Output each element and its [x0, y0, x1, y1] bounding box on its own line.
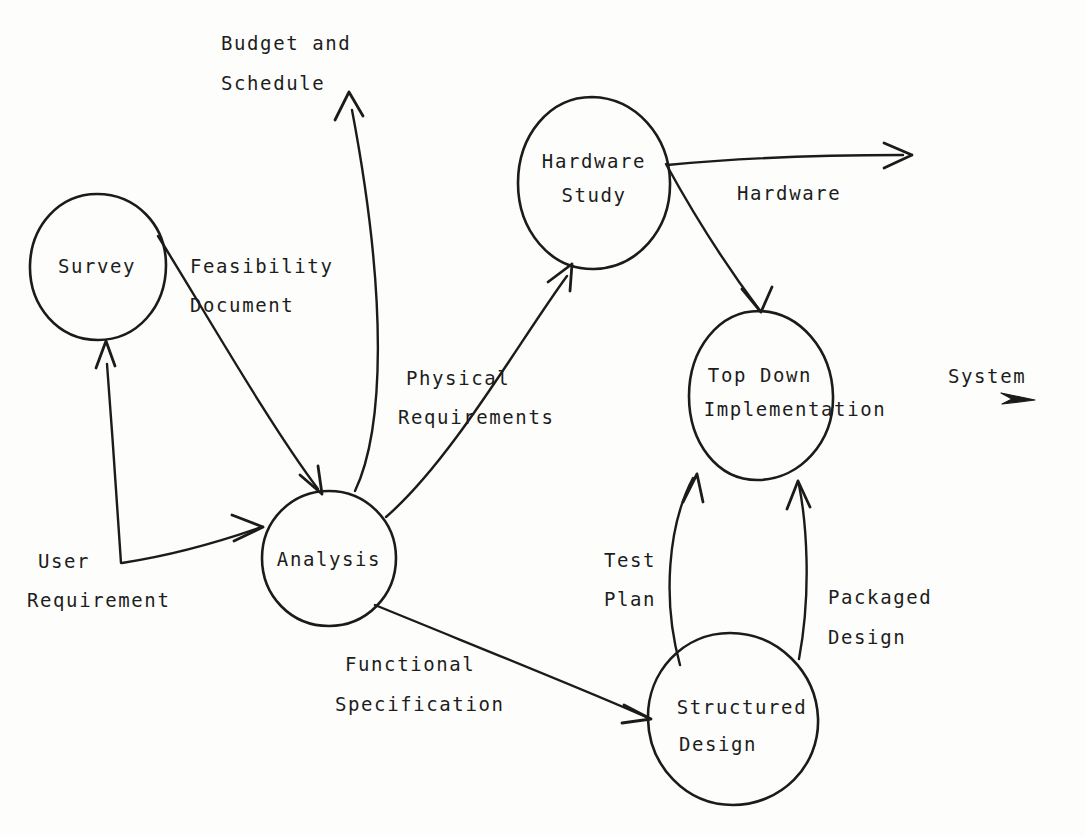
- edge-user-requirement-to-survey[interactable]: [96, 341, 121, 563]
- user-req-analysis-arrowhead: [232, 515, 263, 541]
- analysis-budget-arrowhead: [335, 92, 363, 120]
- node-structured-design[interactable]: Structured Design: [648, 633, 818, 805]
- edge-top-down-to-system[interactable]: [1001, 393, 1035, 404]
- node-top-down-implementation[interactable]: Top Down Implementation: [689, 311, 886, 480]
- flow-label-budget-and-schedule: Budget and Schedule: [221, 32, 351, 94]
- packaged-design-label-line2: Design: [828, 626, 906, 648]
- test-plan-label-line2: Plan: [604, 588, 656, 610]
- budget-label-line1: Budget and: [221, 32, 351, 54]
- flow-label-test-plan: Test Plan: [604, 549, 656, 610]
- analysis-budget-line: [352, 110, 378, 491]
- feasibility-label-line1: Feasibility: [190, 255, 333, 277]
- hardware-study-label-line1: Hardware: [542, 150, 646, 172]
- system-label: System: [948, 365, 1026, 387]
- hardware-study-label-line2: Study: [561, 184, 626, 206]
- node-survey[interactable]: Survey: [30, 194, 166, 340]
- hardware-out-line: [667, 155, 903, 165]
- analysis-label: Analysis: [277, 548, 381, 570]
- structured-design-label-line1: Structured: [677, 696, 807, 718]
- functional-spec-label-line1: Functional: [345, 653, 475, 675]
- edge-structured-to-top-down-packaged-design[interactable]: [787, 481, 810, 659]
- top-down-label-line1: Top Down: [708, 364, 812, 386]
- functional-spec-label-line2: Specification: [335, 693, 505, 715]
- top-down-circle: [689, 311, 833, 480]
- structured-design-label-line2: Design: [679, 733, 757, 755]
- edge-hardware-study-to-hardware[interactable]: [667, 143, 912, 168]
- flow-label-system: System: [948, 365, 1026, 387]
- flow-label-hardware: Hardware: [737, 182, 841, 204]
- test-plan-label-line1: Test: [604, 549, 656, 571]
- edge-analysis-to-hardware-study[interactable]: [386, 264, 572, 517]
- packaged-design-line: [799, 485, 807, 659]
- packaged-design-label-line1: Packaged: [828, 586, 932, 608]
- flow-label-feasibility-document: Feasibility Document: [190, 255, 333, 316]
- flow-label-packaged-design: Packaged Design: [828, 586, 932, 648]
- edge-analysis-to-budget-schedule[interactable]: [335, 92, 378, 491]
- physical-req-label-line2: Requirements: [398, 406, 554, 428]
- hardware-label: Hardware: [737, 182, 841, 204]
- feasibility-label-line2: Document: [190, 294, 294, 316]
- top-down-label-line2: Implementation: [704, 398, 887, 420]
- survey-label: Survey: [58, 255, 136, 277]
- user-req-survey-line: [107, 364, 121, 563]
- user-requirement-label-line2: Requirement: [27, 589, 170, 611]
- physical-req-label-line1: Physical: [406, 367, 510, 389]
- edge-structured-to-top-down-test-plan[interactable]: [670, 474, 703, 665]
- user-req-survey-arrowhead: [96, 341, 115, 368]
- edge-user-requirement-to-analysis[interactable]: [122, 515, 263, 563]
- dfd-canvas: Survey Hardware Study Analysis Top Down …: [0, 0, 1085, 836]
- flow-label-physical-requirements: Physical Requirements: [398, 367, 554, 428]
- packaged-design-arrowhead: [787, 481, 810, 509]
- data-flow-diagram: Survey Hardware Study Analysis Top Down …: [0, 0, 1085, 836]
- user-req-analysis-line: [122, 527, 262, 563]
- structured-design-circle: [648, 633, 818, 805]
- user-requirement-label-line1: User: [38, 550, 90, 572]
- test-plan-line: [670, 478, 693, 665]
- flow-label-functional-specification: Functional Specification: [335, 653, 505, 715]
- budget-label-line2: Schedule: [221, 72, 325, 94]
- system-arrowhead: [1001, 393, 1035, 404]
- node-hardware-study[interactable]: Hardware Study: [518, 97, 670, 269]
- analysis-hardware-line: [386, 276, 567, 517]
